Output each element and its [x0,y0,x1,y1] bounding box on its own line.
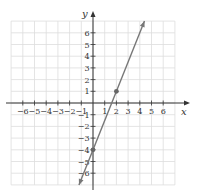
y-tick-label: 6 [84,29,89,38]
plotted-point [114,89,119,94]
x-tick-label: 2 [114,107,119,116]
y-axis-label: y [81,8,88,19]
x-tick-label: 4 [137,107,142,116]
y-tick-label: 3 [84,64,89,73]
y-tick-label: 2 [84,76,89,85]
x-tick-label: −4 [40,107,52,116]
y-tick-label: 4 [84,52,89,61]
y-tick-label: −2 [78,122,90,131]
y-axis-arrow-icon [91,11,96,17]
coordinate-plane: −6−5−4−3−2−1123456−6−5−4−3−2−1123456 x y [0,0,198,196]
x-tick-label: −3 [52,107,64,116]
x-tick-label: 6 [161,107,166,116]
y-tick-label: 5 [84,41,89,50]
plotted-point [91,147,96,152]
x-tick-label: −2 [64,107,76,116]
x-tick-label: 3 [126,107,131,116]
x-tick-label: 5 [149,107,154,116]
y-tick-label: −3 [78,134,90,143]
y-tick-label: −1 [78,111,90,120]
y-tick-label: 1 [84,87,89,96]
y-tick-label: −4 [78,146,90,155]
x-tick-label: −5 [29,107,41,116]
line-arrow-up-icon [140,21,145,27]
axes [6,11,190,190]
x-axis-arrow-icon [184,101,190,106]
x-axis-label: x [181,106,187,117]
x-tick-label: −6 [17,107,29,116]
